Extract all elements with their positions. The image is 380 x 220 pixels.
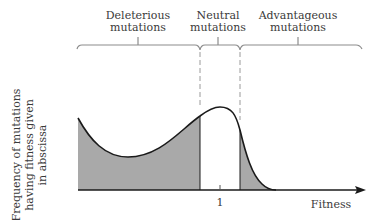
x-tick-label: 1 [212, 197, 228, 209]
y-axis-label-line1: Frequency of mutations [10, 80, 23, 220]
y-axis-label: Frequency of mutations having fitness gi… [10, 80, 70, 220]
fitness-distribution-diagram: Deleterious mutations Neutral mutations … [0, 0, 380, 220]
deleterious-label-line2: mutations [98, 22, 178, 34]
y-axis-label-line2: having fitness given [23, 80, 36, 220]
neutral-label: Neutral mutations [188, 10, 248, 34]
x-axis-label: Fitness [306, 199, 356, 211]
category-brackets [77, 37, 362, 50]
deleterious-label: Deleterious mutations [98, 10, 178, 34]
neutral-label-line2: mutations [188, 22, 248, 34]
y-axis-label-line3: in abscissa [36, 80, 49, 220]
deleterious-bracket [77, 45, 362, 50]
deleterious-shaded-region [78, 116, 200, 190]
advantageous-label: Advantageous mutations [253, 10, 343, 34]
advantageous-label-line2: mutations [253, 22, 343, 34]
advantageous-shaded-region [240, 130, 276, 190]
